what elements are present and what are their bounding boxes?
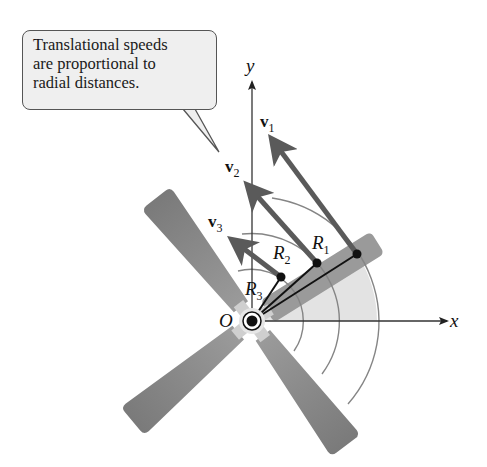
y-axis-label: y	[244, 55, 255, 76]
callout-box: Translational speeds are proportional to…	[22, 30, 217, 110]
callout-line-1: Translational speeds	[33, 35, 206, 54]
label-r3: R3	[244, 278, 263, 303]
origin-label: O	[219, 310, 233, 331]
hub	[239, 308, 265, 334]
label-v3: v3	[208, 212, 223, 235]
point-r3	[277, 273, 286, 282]
callout-pointer	[183, 109, 219, 152]
callout-line-2: are proportional to	[33, 54, 206, 73]
label-v1: v1	[260, 112, 275, 135]
label-r1: R1	[311, 232, 330, 257]
fan-rotation-diagram: y x O v1 v2 v3 R1 R2 R3 Translational sp…	[0, 0, 487, 467]
blade-lower-left	[121, 312, 258, 435]
label-v2: v2	[225, 157, 240, 180]
label-r2: R2	[272, 242, 291, 267]
point-r1	[353, 250, 362, 259]
point-r2	[313, 259, 322, 268]
x-axis-label: x	[449, 310, 459, 331]
callout-line-3: radial distances.	[33, 73, 206, 92]
blade-upper-left	[142, 187, 261, 326]
